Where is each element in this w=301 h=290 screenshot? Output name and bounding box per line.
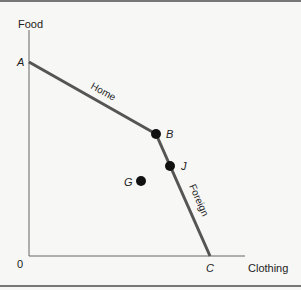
ppf-line bbox=[29, 62, 210, 256]
label-j: J bbox=[180, 160, 187, 172]
origin-label: 0 bbox=[17, 258, 23, 270]
y-axis-label: Food bbox=[18, 18, 43, 30]
label-g: G bbox=[124, 176, 133, 188]
label-c: C bbox=[206, 262, 214, 274]
ppf-diagram: Food A B J G 0 C Clothing Home Foreign bbox=[0, 0, 301, 290]
point-j bbox=[165, 161, 175, 171]
label-b: B bbox=[166, 128, 173, 140]
label-a: A bbox=[16, 56, 24, 68]
point-b bbox=[151, 129, 161, 139]
x-axis-label: Clothing bbox=[248, 262, 288, 274]
point-g bbox=[136, 176, 146, 186]
